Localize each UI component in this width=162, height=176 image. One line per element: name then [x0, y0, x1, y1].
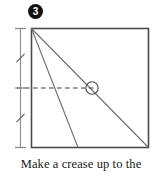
origami-diagram [0, 0, 162, 176]
origami-step-figure: 3 Make a crease up to the [0, 0, 162, 176]
figure-caption: Make a crease up to the [0, 157, 162, 172]
